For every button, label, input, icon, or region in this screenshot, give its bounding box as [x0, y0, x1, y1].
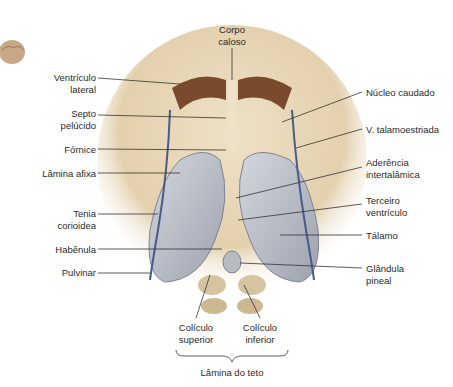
label-fornice: Fórnice	[20, 144, 96, 156]
label-nucleo-caudado: Núcleo caudado	[366, 87, 435, 99]
brain-orientation-icon	[0, 40, 25, 64]
label-corpo-caloso: Corpo caloso	[200, 24, 264, 47]
label-habenula: Habênula	[20, 244, 96, 256]
label-lamina-afixa: Lâmina afixa	[10, 168, 96, 180]
label-coliculo-inferior: Colículo inferior	[232, 322, 288, 345]
brace	[176, 350, 288, 362]
label-glandula-pineal: Glândula pineal	[366, 263, 404, 286]
label-tenia-corioidea: Tenia corioidea	[20, 208, 96, 231]
label-coliculo-superior: Colículo superior	[168, 322, 224, 345]
label-terceiro-ventriculo: Terceiro ventrículo	[366, 195, 407, 218]
label-pulvinar: Pulvinar	[20, 267, 96, 279]
label-lamina-do-teto: Lâmina do teto	[180, 367, 284, 379]
label-ventriculo-lateral: Ventrículo lateral	[30, 72, 96, 95]
label-septo-pelucido: Septo pelúcido	[30, 108, 96, 131]
brain-illustration	[0, 0, 453, 387]
label-v-talamoestriada: V. talamoestriada	[366, 124, 439, 136]
label-aderencia-intertalamica: Aderência intertalâmica	[366, 157, 420, 180]
label-talamo: Tálamo	[366, 230, 398, 242]
